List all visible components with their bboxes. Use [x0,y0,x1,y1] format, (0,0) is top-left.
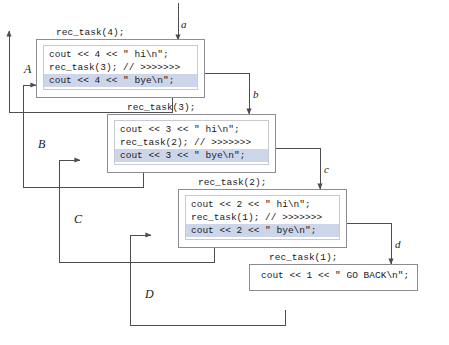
code-panel-3: cout << 2 << " hi\n"; rec_task(1); // >>… [185,195,340,240]
call-arrow-b [205,73,249,114]
code-line: cout << 2 << " hi\n"; [186,198,339,211]
return-label-C: C [74,212,82,227]
recursion-trace-diagram: rec_task(4); rec_task(3); rec_task(2); r… [0,0,449,345]
code-line-highlighted: cout << 3 << " bye\n"; [115,149,268,162]
call-label-d: d [395,238,401,250]
frame-caption-4: rec_task(1); [269,252,337,263]
call-arrow-d [347,223,391,264]
code-panel-4: cout << 1 << " GO BACK\n"; [256,269,411,282]
return-label-A: A [24,62,31,77]
frame-caption-3: rec_task(2); [198,177,266,188]
code-panel-2: cout << 3 << " hi\n"; rec_task(2); // >>… [114,120,269,165]
code-line: rec_task(1); // >>>>>>> [186,211,339,224]
frame-caption-2: rec_task(3); [127,102,195,113]
recursion-frame-2: cout << 3 << " hi\n"; rec_task(2); // >>… [107,114,276,173]
code-panel-1: cout << 4 << " hi\n"; rec_task(3); // >>… [43,45,198,90]
code-line: cout << 1 << " GO BACK\n"; [256,269,411,282]
code-line: rec_task(2); // >>>>>>> [115,136,268,149]
return-label-B: B [38,137,45,152]
code-line: rec_task(3); // >>>>>>> [44,61,197,74]
recursion-frame-4: cout << 1 << " GO BACK\n"; [249,264,418,291]
code-line-highlighted: cout << 4 << " bye\n"; [44,74,197,87]
recursion-frame-1: cout << 4 << " hi\n"; rec_task(3); // >>… [36,39,205,98]
frame-caption-1: rec_task(4); [56,27,124,38]
call-label-b: b [253,88,259,100]
code-line: cout << 3 << " hi\n"; [115,123,268,136]
recursion-frame-3: cout << 2 << " hi\n"; rec_task(1); // >>… [178,189,347,248]
call-label-c: c [324,163,329,175]
code-line-highlighted: cout << 2 << " bye\n"; [186,224,339,237]
return-label-D: D [145,287,154,302]
code-line: cout << 4 << " hi\n"; [44,48,197,61]
call-arrow-c [276,148,320,189]
call-label-a: a [181,18,187,30]
